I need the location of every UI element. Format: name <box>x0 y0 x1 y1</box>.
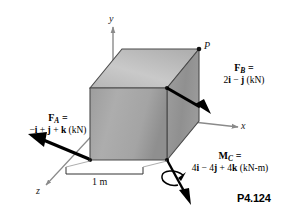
force-a-label: FA = −i + j + k (kN) <box>8 112 108 135</box>
dimension-right-leader <box>143 161 167 167</box>
force-a-expression: −i + j + k (kN) <box>8 125 108 135</box>
force-a-name: FA = <box>8 112 108 125</box>
moment-c-subscript: C <box>228 154 233 163</box>
force-a-equals: = <box>62 112 68 123</box>
force-a-arrow <box>28 132 92 162</box>
mechanics-diagram-svg <box>0 0 295 215</box>
force-a-shaft <box>41 139 89 159</box>
force-b-equals: = <box>248 62 254 73</box>
x-axis-label: x <box>241 120 245 131</box>
figure-number: P4.124 <box>237 192 271 204</box>
moment-c-equals: = <box>236 150 242 161</box>
moment-c-name: MC = <box>168 150 292 163</box>
dimension-label: 1 m <box>92 176 107 187</box>
force-b-label: FB = 2i − j (kN) <box>198 62 290 85</box>
force-b-subscript: B <box>240 66 245 75</box>
moment-c-expression: 4i − 4j + 4k (kN-m) <box>168 163 292 173</box>
dimension-left-leader <box>66 161 90 167</box>
force-b-name: FB = <box>198 62 290 75</box>
dimension-bracket <box>66 161 167 174</box>
y-axis-label: y <box>109 13 113 24</box>
moment-c-symbol: M <box>218 150 228 161</box>
figure-container: y x z P FA = −i + j + k (kN) FB = 2i − j… <box>0 0 295 215</box>
moment-c-label: MC = 4i − 4j + 4k (kN-m) <box>168 150 292 173</box>
force-a-subscript: A <box>54 116 59 125</box>
z-axis-label: z <box>36 185 40 196</box>
cube-solid <box>90 49 199 160</box>
point-p-marker <box>197 47 202 52</box>
force-b-expression: 2i − j (kN) <box>198 75 290 85</box>
moment-c-arrowhead <box>179 188 191 205</box>
point-p-label: P <box>204 40 210 51</box>
